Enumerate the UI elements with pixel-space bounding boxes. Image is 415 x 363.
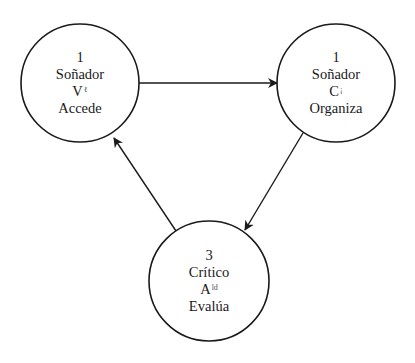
node-1-label: 1 Soñador Vℓ Accede bbox=[25, 49, 135, 116]
edge-node-3-to-node-1 bbox=[114, 138, 176, 231]
node-1-letter: V bbox=[72, 83, 82, 99]
edge-node-2-to-node-3 bbox=[245, 133, 303, 230]
node-2-letter-mark: ¡ bbox=[340, 85, 343, 94]
node-1-letter-mark: ℓ bbox=[84, 85, 88, 94]
node-3-role: Crítico bbox=[154, 264, 264, 281]
node-3-letter-line: Ald bbox=[154, 280, 264, 298]
node-3-letter: A bbox=[200, 281, 210, 297]
node-2-number: 1 bbox=[281, 49, 391, 66]
node-2-label: 1 Soñador C¡ Organiza bbox=[281, 49, 391, 116]
node-1-number: 1 bbox=[25, 49, 135, 66]
node-1-role: Soñador bbox=[25, 66, 135, 83]
node-2-letter: C bbox=[329, 83, 339, 99]
node-1-action: Accede bbox=[25, 100, 135, 117]
node-2-action: Organiza bbox=[281, 100, 391, 117]
node-3-letter-mark: ld bbox=[212, 283, 218, 292]
node-3-number: 3 bbox=[154, 247, 264, 264]
node-3-label: 3 Crítico Ald Evalúa bbox=[154, 247, 264, 314]
node-1-letter-line: Vℓ bbox=[25, 82, 135, 100]
node-2-role: Soñador bbox=[281, 66, 391, 83]
node-3-action: Evalúa bbox=[154, 298, 264, 315]
node-2-letter-line: C¡ bbox=[281, 82, 391, 100]
